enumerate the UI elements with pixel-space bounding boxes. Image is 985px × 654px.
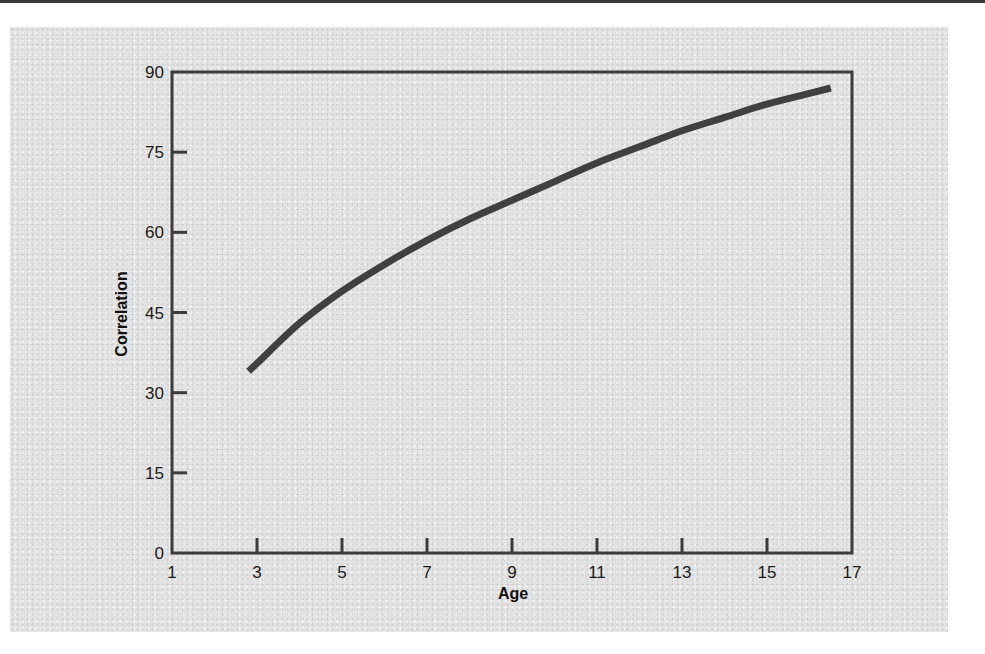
x-tick-label: 9 xyxy=(507,563,516,582)
x-tick-label: 15 xyxy=(758,563,777,582)
line-chart: 0153045607590 1357911131517 Age Correlat… xyxy=(0,0,985,654)
x-axis-title: Age xyxy=(498,585,528,602)
y-tick-label: 30 xyxy=(145,384,164,403)
y-tick-label: 75 xyxy=(145,143,164,162)
correlation-curve xyxy=(249,88,831,371)
y-tick-label: 60 xyxy=(145,223,164,242)
x-tick-label: 1 xyxy=(167,563,176,582)
plot-frame xyxy=(172,72,852,553)
y-tick-label: 90 xyxy=(145,63,164,82)
y-tick-label: 0 xyxy=(155,544,164,563)
y-axis-title: Correlation xyxy=(113,271,130,356)
x-tick-label: 7 xyxy=(422,563,431,582)
plot-border xyxy=(172,72,852,553)
y-axis: 0153045607590 xyxy=(145,63,187,563)
y-tick-label: 45 xyxy=(145,304,164,323)
x-tick-label: 3 xyxy=(252,563,261,582)
x-tick-label: 11 xyxy=(588,563,606,582)
x-axis: 1357911131517 xyxy=(167,538,861,582)
x-tick-label: 5 xyxy=(337,563,346,582)
y-tick-label: 15 xyxy=(145,464,164,483)
x-tick-label: 13 xyxy=(673,563,692,582)
x-tick-label: 17 xyxy=(843,563,862,582)
